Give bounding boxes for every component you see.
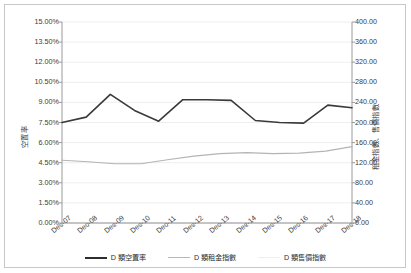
chart-container: 空置率 租金指數、售價指數 0.00%1.50%3.00%4.50%6.00%7… [0, 0, 411, 273]
legend-item-label: D 類售價指數 [284, 254, 326, 261]
legend-swatch-line-icon [168, 257, 190, 258]
chart-legend: D 類空置率D 類租金指數D 類售價指數 [0, 250, 411, 266]
legend-item[interactable]: D 類租金指數 [168, 254, 236, 261]
legend-swatch-line-icon [85, 257, 107, 259]
legend-item-label: D 類空置率 [111, 254, 146, 261]
legend-item[interactable]: D 類售價指數 [258, 254, 326, 261]
series-line [62, 94, 352, 123]
chart-plot-area [0, 0, 411, 273]
legend-item[interactable]: D 類空置率 [85, 254, 146, 261]
series-line [62, 147, 352, 164]
legend-item-label: D 類租金指數 [194, 254, 236, 261]
legend-swatch-line-icon [258, 257, 280, 258]
